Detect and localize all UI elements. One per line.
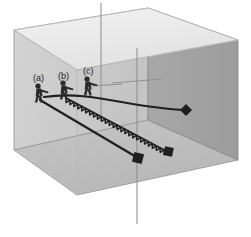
- shooter-label-c: (c): [83, 66, 94, 76]
- shooter-a-head: [35, 83, 40, 88]
- shooter-label-b: (b): [58, 71, 69, 81]
- scene-svg: [0, 0, 251, 237]
- figure-canvas: (a) (b) (c): [0, 0, 251, 237]
- box-faces: [14, 8, 238, 195]
- trajectory-c-endpoint-square: [163, 146, 174, 157]
- shooter-c-head: [84, 76, 89, 81]
- shooter-b-head: [60, 80, 65, 85]
- shooter-label-a: (a): [33, 73, 44, 83]
